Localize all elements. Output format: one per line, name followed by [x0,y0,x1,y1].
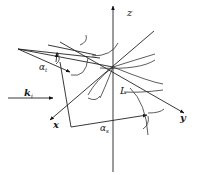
length-label: L [119,85,127,96]
incident-rays [18,45,113,72]
alpha-s-subscript: s [106,128,109,134]
alpha-t-subscript: t [45,67,48,73]
y-axis [60,42,184,113]
diagram-canvas: z x y k i α t α s L [0,0,198,175]
ki-label: k [24,87,31,98]
y-axis-label: y [179,112,187,123]
ki-subscript: i [31,92,33,99]
z-axis-label: z [126,7,133,18]
projection-frame [60,62,147,127]
x-axis [50,31,154,120]
x-axis-label: x [52,119,60,130]
